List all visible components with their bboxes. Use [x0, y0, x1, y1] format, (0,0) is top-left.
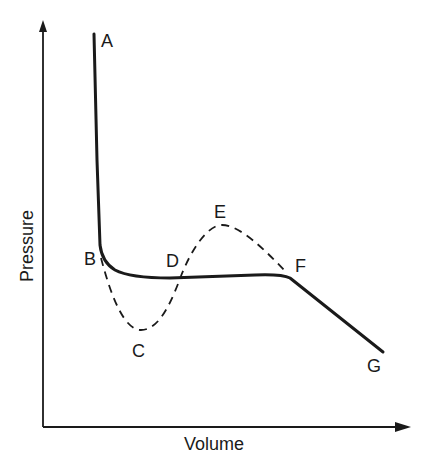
pv-diagram: A B C D E F G Volume Pressure	[0, 0, 426, 470]
point-label-d: D	[166, 251, 179, 271]
point-label-c: C	[132, 341, 145, 361]
solid-isotherm-curve	[94, 34, 383, 352]
y-axis-label: Pressure	[17, 210, 37, 282]
point-label-g: G	[367, 356, 381, 376]
x-axis-arrow-icon	[395, 422, 411, 432]
point-label-f: F	[295, 256, 306, 276]
point-label-e: E	[214, 202, 226, 222]
point-label-b: B	[84, 249, 96, 269]
point-label-a: A	[101, 31, 113, 51]
y-axis-arrow-icon	[39, 20, 47, 32]
x-axis-label: Volume	[184, 434, 244, 454]
